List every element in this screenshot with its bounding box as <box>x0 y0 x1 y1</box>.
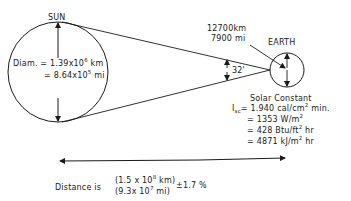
solar-constant-line3: = 428 Btu/ft2 hr <box>247 126 314 135</box>
sun-label: SUN <box>48 13 66 22</box>
solar-constant-line2: = 1353 W/m2 <box>247 115 303 124</box>
distance-arrow-left <box>60 160 200 161</box>
distance-km: (1.5 x 108 km) <box>115 176 175 185</box>
earth-diameter-mi: 7900 mi <box>211 34 245 43</box>
earth-label-leader <box>250 45 285 68</box>
sun-diameter-mi: = 8.64x105 mi <box>44 71 105 80</box>
distance-arrow-right <box>200 158 285 160</box>
angle-label: 32' <box>232 66 245 75</box>
distance-tolerance: ±1.7 % <box>176 181 207 190</box>
solar-constant-line4: = 4871 kJ/m2 hr <box>247 137 314 146</box>
distance-prefix: Distance is <box>55 183 101 192</box>
solar-constant-line1: Isc= 1.940 cal/cm2 min. <box>232 104 330 113</box>
earth-diameter-km: 12700km <box>207 24 246 33</box>
distance-mi: (9.3x 107 mi) <box>115 187 170 196</box>
sun-diameter-km: Diam. = 1.39x106 km <box>13 59 103 68</box>
earth-label: EARTH <box>268 38 295 47</box>
solar-constant-title: Solar Constant <box>250 94 312 103</box>
